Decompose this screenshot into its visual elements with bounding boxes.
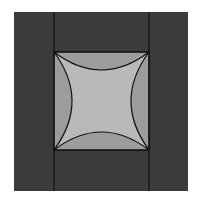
geometric-diagram — [0, 0, 199, 202]
